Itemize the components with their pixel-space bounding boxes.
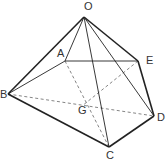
vertex-label-C: C [106, 149, 114, 161]
edge-ED [138, 61, 154, 116]
edge-OE [84, 17, 138, 61]
edge-OB [8, 17, 84, 94]
vertex-label-A: A [57, 47, 65, 59]
edge-OC [84, 17, 109, 147]
dashed-edge-EG [82, 61, 138, 106]
pyramid-diagram: OABCDEG [0, 0, 166, 162]
edge-CD [109, 116, 154, 147]
edge-OD [84, 17, 154, 116]
vertex-label-D: D [157, 111, 165, 123]
vertex-label-E: E [146, 54, 153, 66]
dashed-edge-AC [65, 61, 109, 147]
vertex-label-O: O [84, 0, 93, 12]
vertex-label-G: G [78, 104, 87, 116]
edge-OA [65, 17, 84, 61]
vertex-label-B: B [0, 88, 7, 100]
